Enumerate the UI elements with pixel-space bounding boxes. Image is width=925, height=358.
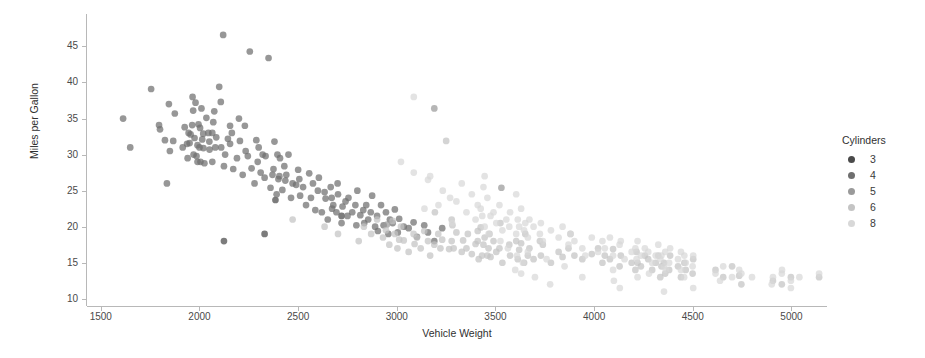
data-point — [334, 180, 341, 187]
data-point — [189, 122, 196, 129]
y-tick-label: 10 — [40, 293, 78, 305]
x-tick-label: 1500 — [71, 311, 131, 324]
data-point — [516, 246, 523, 253]
data-point — [611, 277, 618, 284]
data-point — [518, 205, 525, 212]
data-point — [449, 220, 456, 227]
series-8 — [398, 94, 823, 295]
data-point — [375, 228, 382, 235]
data-point — [667, 245, 674, 252]
legend-entries: 34568 — [840, 151, 920, 231]
data-point — [394, 245, 401, 252]
data-point — [378, 202, 385, 209]
data-point — [518, 240, 525, 247]
data-point — [431, 241, 438, 248]
data-point — [479, 213, 486, 220]
data-point — [212, 144, 219, 151]
y-tick-mark — [82, 191, 86, 192]
data-point — [230, 166, 237, 173]
data-point — [164, 180, 171, 187]
data-point — [162, 137, 169, 144]
data-point — [189, 94, 196, 101]
legend-item-5[interactable]: 5 — [840, 183, 920, 199]
data-point — [216, 83, 223, 90]
data-point — [453, 198, 460, 205]
data-point — [206, 138, 213, 145]
data-point — [414, 234, 421, 241]
data-point — [448, 238, 455, 245]
x-tick-label-text: 3000 — [367, 311, 427, 322]
data-point — [538, 252, 545, 259]
data-point — [485, 231, 492, 238]
data-point — [194, 158, 201, 165]
x-tick-label-text: 1500 — [71, 311, 131, 322]
legend-item-6[interactable]: 6 — [840, 199, 920, 215]
data-point — [481, 223, 488, 230]
data-point — [269, 171, 276, 178]
data-point — [427, 252, 434, 259]
data-point — [496, 202, 503, 209]
legend-swatch-circle-icon — [848, 204, 855, 211]
y-axis-title: Miles per Gallon — [28, 51, 40, 191]
data-point — [363, 202, 370, 209]
data-point — [272, 197, 279, 204]
data-point — [322, 195, 329, 202]
data-point — [206, 146, 213, 153]
data-point — [638, 263, 645, 270]
x-tick-label: 4500 — [663, 311, 723, 324]
data-point — [485, 245, 492, 252]
data-point — [610, 252, 617, 259]
legend-item-8[interactable]: 8 — [840, 215, 920, 231]
data-point — [431, 105, 438, 112]
data-point — [384, 221, 391, 228]
data-point — [435, 202, 442, 209]
data-point — [295, 166, 302, 173]
data-point — [507, 209, 514, 216]
data-point — [513, 231, 520, 238]
data-point — [555, 234, 562, 241]
y-tick-label-text: 40 — [40, 76, 78, 87]
legend-swatch-cell — [840, 172, 862, 179]
data-point — [267, 184, 274, 191]
y-tick-label: 20 — [40, 221, 78, 233]
y-tick-mark — [82, 155, 86, 156]
data-point — [481, 173, 488, 180]
data-point — [690, 252, 697, 259]
data-point — [127, 144, 134, 151]
data-point — [689, 270, 696, 277]
data-point — [277, 155, 284, 162]
data-point — [184, 155, 191, 162]
data-point — [571, 238, 578, 245]
x-tick-label-text: 4000 — [564, 311, 624, 322]
data-point — [559, 254, 566, 261]
data-point — [296, 176, 303, 183]
data-point — [411, 241, 418, 248]
data-point — [400, 237, 407, 244]
series-5 — [384, 105, 505, 228]
data-point — [505, 245, 512, 252]
data-point — [588, 251, 595, 258]
data-point — [779, 267, 786, 274]
data-point — [421, 222, 428, 229]
legend: Cylinders 34568 — [840, 134, 920, 231]
data-point — [432, 209, 439, 216]
data-point — [237, 138, 244, 145]
data-point — [490, 238, 497, 245]
legend-item-4[interactable]: 4 — [840, 167, 920, 183]
x-tick-label: 3000 — [367, 311, 427, 324]
data-point — [333, 209, 340, 216]
data-point — [318, 209, 325, 216]
data-point — [712, 270, 719, 277]
data-point — [227, 122, 234, 129]
data-point — [548, 227, 555, 234]
data-point — [599, 238, 606, 245]
data-point — [236, 115, 243, 122]
y-tick-label-text: 45 — [40, 40, 78, 51]
y-tick-label-text: 15 — [40, 257, 78, 268]
data-point — [410, 94, 417, 101]
data-point — [293, 182, 300, 189]
data-point — [300, 184, 307, 191]
data-point — [480, 184, 487, 191]
data-point — [567, 231, 574, 238]
legend-item-3[interactable]: 3 — [840, 151, 920, 167]
